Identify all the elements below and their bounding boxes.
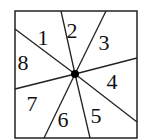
sector-label: 7 [27,91,38,116]
sector-labels: 12345678 [18,18,118,132]
sector-label: 4 [107,69,118,94]
sector-label: 6 [58,107,69,132]
divider-line [15,74,75,89]
sector-label: 8 [18,50,29,75]
sector-label: 2 [67,18,78,43]
sector-label: 3 [99,30,110,55]
center-dot [71,70,79,78]
sector-label: 1 [38,25,49,50]
spinner-diagram: 12345678 [0,0,146,140]
sector-label: 5 [91,103,102,128]
